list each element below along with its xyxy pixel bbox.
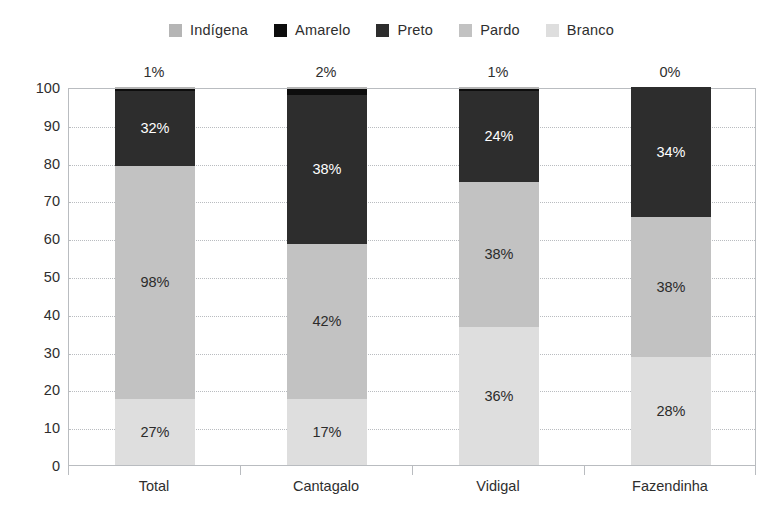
x-tick-mark [412,466,413,475]
x-tick-mark [68,466,69,475]
bar-segment-label: 42% [312,314,341,329]
bar-segment-preto[interactable]: 38% [287,95,367,244]
bar-segment-branco[interactable]: 17% [287,399,367,465]
plot-area: 27%98%32%17%42%38%36%38%24%28%38%34% [68,88,756,466]
y-tick-label: 20 [8,382,60,398]
legend-label: Amarelo [295,22,350,38]
bar-top-label: 2% [286,64,366,80]
y-tick-label: 30 [8,345,60,361]
y-tick-label: 50 [8,269,60,285]
x-tick-label: Cantagalo [246,478,406,494]
y-axis: 0102030405060708090100 [0,88,60,466]
legend-item[interactable]: Indígena [169,22,248,38]
bar-column[interactable]: 27%98%32% [115,87,195,465]
bar-segment-label: 36% [484,389,513,404]
legend-label: Branco [567,22,614,38]
x-tick-mark [240,466,241,475]
bar-segment-label: 34% [656,145,685,160]
bar-segment-amarelo[interactable] [459,89,539,91]
bar-segment-branco[interactable]: 28% [631,357,711,465]
y-tick-label: 100 [8,80,60,96]
legend-swatch-icon [376,24,389,37]
x-tick-mark [584,466,585,475]
y-tick-label: 0 [8,458,60,474]
bar-segment-label: 98% [140,275,169,290]
x-tick-label: Total [74,478,234,494]
legend-swatch-icon [459,24,472,37]
bar-segment-label: 38% [656,280,685,295]
bar-segment-pardo[interactable]: 38% [631,217,711,357]
legend-label: Pardo [480,22,520,38]
bar-column[interactable]: 17%42%38% [287,87,367,465]
bar-segment-label: 38% [484,247,513,262]
bar-segment-pardo[interactable]: 42% [287,244,367,399]
bar-segment-amarelo[interactable] [115,89,195,91]
bar-segment-label: 28% [656,404,685,419]
legend-swatch-icon [169,24,182,37]
bar-segment-amarelo[interactable] [287,89,367,95]
bar-segment-indígena[interactable] [287,87,367,89]
legend-item[interactable]: Branco [546,22,614,38]
chart-legend: IndígenaAmareloPretoPardoBranco [0,22,783,38]
x-tick-mark [755,466,756,475]
y-tick-label: 80 [8,156,60,172]
bar-top-label: 1% [458,64,538,80]
legend-item[interactable]: Amarelo [274,22,350,38]
bar-segment-pardo[interactable]: 38% [459,182,539,328]
x-tick-label: Fazendinha [590,478,750,494]
y-tick-label: 40 [8,307,60,323]
x-tick-label: Vidigal [418,478,578,494]
bar-segment-preto[interactable]: 34% [631,87,711,217]
bar-column[interactable]: 36%38%24% [459,87,539,465]
bar-segment-label: 38% [312,162,341,177]
bar-segment-branco[interactable]: 27% [115,399,195,465]
legend-item[interactable]: Pardo [459,22,520,38]
bar-segment-label: 32% [140,121,169,136]
y-tick-label: 70 [8,193,60,209]
bar-segment-indígena[interactable] [459,87,539,89]
bar-segment-branco[interactable]: 36% [459,327,539,465]
bar-segment-pardo[interactable]: 98% [115,166,195,398]
bar-segment-label: 27% [140,425,169,440]
legend-label: Preto [397,22,433,38]
bar-segment-label: 24% [484,129,513,144]
y-tick-label: 10 [8,420,60,436]
y-tick-label: 60 [8,231,60,247]
legend-label: Indígena [190,22,248,38]
legend-item[interactable]: Preto [376,22,433,38]
y-tick-label: 90 [8,118,60,134]
x-axis: TotalCantagaloVidigalFazendinha [68,466,756,506]
legend-swatch-icon [546,24,559,37]
legend-swatch-icon [274,24,287,37]
bar-segment-preto[interactable]: 24% [459,91,539,182]
bar-top-label: 0% [630,64,710,80]
bar-segment-indígena[interactable] [115,87,195,89]
bar-column[interactable]: 28%38%34% [631,87,711,465]
bar-segment-preto[interactable]: 32% [115,91,195,167]
bar-top-label: 1% [114,64,194,80]
bar-segment-label: 17% [312,425,341,440]
